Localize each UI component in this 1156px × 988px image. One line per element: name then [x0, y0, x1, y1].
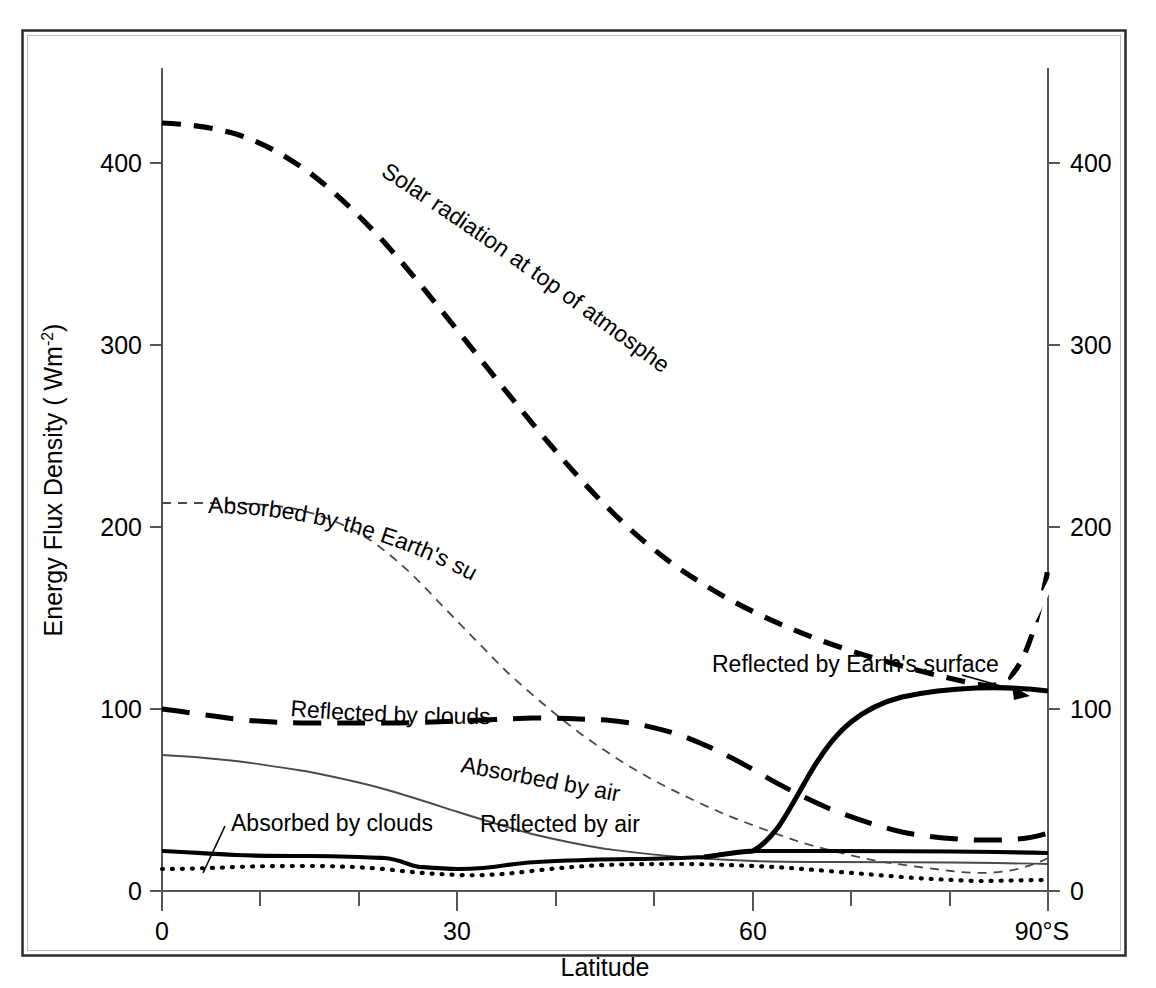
y-axis-title-suffix: )	[39, 324, 67, 332]
figure-container: 0 100 200 300 400 0 100 200 300 400	[0, 0, 1156, 988]
x-axis-labels: 0 30 60 90°S	[155, 917, 1069, 945]
curve-label-absorbed-earth-surface-text: Absorbed by the Earth's surface	[0, 0, 482, 586]
x-tick-label-90: 90°S	[1015, 917, 1069, 945]
x-tick-label-30: 30	[443, 917, 471, 945]
x-axis-title: Latitude	[561, 953, 650, 981]
x-tick-label-60: 60	[739, 917, 767, 945]
x-axis-ticks	[162, 891, 1048, 911]
svg-text:Energy Flux Density ( Wm-2): Energy Flux Density ( Wm-2)	[39, 324, 67, 637]
curve-label-absorbed-by-air-text: Absorbed by air	[459, 751, 623, 806]
curve-label-absorbed-by-clouds: Absorbed by clouds	[231, 810, 433, 836]
chart-svg: 0 100 200 300 400 0 100 200 300 400	[0, 0, 1156, 988]
y-right-tick-label-300: 300	[1070, 331, 1112, 359]
curve-solar-radiation-tail	[1000, 580, 1052, 686]
y-axis-title-superscript: -2	[39, 332, 56, 346]
curve-solar-radiation-top-of-atmosphere	[162, 123, 1048, 686]
y-axis-right-ticks	[1048, 163, 1060, 891]
curve-label-reflected-by-earths-surface: Reflected by Earth's surface	[712, 651, 999, 677]
y-right-tick-label-400: 400	[1070, 149, 1112, 177]
y-right-tick-label-200: 200	[1070, 513, 1112, 541]
x-tick-label-0: 0	[155, 917, 169, 945]
y-right-tick-label-100: 100	[1070, 695, 1112, 723]
curve-reflected-by-earths-surface	[704, 688, 1048, 857]
curve-label-absorbed-by-air: Absorbed by air	[459, 751, 623, 806]
y-axis-right-labels: 0 100 200 300 400	[1070, 149, 1112, 905]
y-axis-left-ticks	[150, 163, 162, 891]
y-tick-label-300: 300	[100, 331, 142, 359]
curve-label-absorbed-earth-surface: Absorbed by the Earth's surface	[0, 0, 482, 586]
curve-label-reflected-by-air: Reflected by air	[480, 811, 640, 837]
curve-label-solar-radiation-text: Solar radiation at top of atmosphere	[0, 0, 675, 378]
y-axis-title-main: Energy Flux Density ( Wm	[39, 346, 67, 636]
y-tick-label-200: 200	[100, 513, 142, 541]
y-axis-left-labels: 0 100 200 300 400	[100, 149, 142, 905]
y-axis-title: Energy Flux Density ( Wm-2)	[39, 324, 67, 637]
y-tick-label-400: 400	[100, 149, 142, 177]
curve-label-solar-radiation: Solar radiation at top of atmosphere	[0, 0, 675, 378]
y-tick-label-100: 100	[100, 695, 142, 723]
y-tick-label-0: 0	[128, 877, 142, 905]
y-right-tick-label-0: 0	[1070, 877, 1084, 905]
